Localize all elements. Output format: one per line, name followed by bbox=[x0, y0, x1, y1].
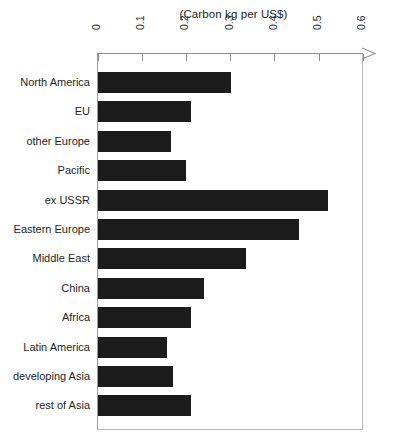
bar-4 bbox=[98, 190, 328, 211]
category-label-8: Africa bbox=[0, 311, 90, 323]
category-label-6: Middle East bbox=[0, 252, 90, 264]
bar-10 bbox=[98, 366, 173, 387]
bar-7 bbox=[98, 278, 204, 299]
bar-chart: (Carbon kg per US$) 00.10.20.30.40.50.6 … bbox=[0, 0, 397, 443]
category-label-5: Eastern Europe bbox=[0, 223, 90, 235]
category-label-3: Pacific bbox=[0, 164, 90, 176]
bar-row: developing Asia bbox=[0, 366, 397, 387]
bar-8 bbox=[98, 307, 191, 328]
bar-3 bbox=[98, 160, 186, 181]
category-label-0: North America bbox=[0, 76, 90, 88]
category-label-9: Latin America bbox=[0, 341, 90, 353]
bar-11 bbox=[98, 395, 191, 416]
bar-row: Middle East bbox=[0, 248, 397, 269]
category-label-7: China bbox=[0, 282, 90, 294]
bar-5 bbox=[98, 219, 299, 240]
bar-6 bbox=[98, 248, 246, 269]
bar-row: EU bbox=[0, 101, 397, 122]
category-label-10: developing Asia bbox=[0, 370, 90, 382]
bar-9 bbox=[98, 337, 167, 358]
bar-row: ex USSR bbox=[0, 190, 397, 211]
bar-row: Latin America bbox=[0, 337, 397, 358]
category-label-4: ex USSR bbox=[0, 194, 90, 206]
bar-row: Africa bbox=[0, 307, 397, 328]
bar-row: other Europe bbox=[0, 131, 397, 152]
bar-row: Eastern Europe bbox=[0, 219, 397, 240]
bar-row: China bbox=[0, 278, 397, 299]
bars-layer: North AmericaEUother EuropePacificex USS… bbox=[0, 0, 397, 443]
bar-row: North America bbox=[0, 72, 397, 93]
bar-2 bbox=[98, 131, 171, 152]
bar-row: Pacific bbox=[0, 160, 397, 181]
category-label-1: EU bbox=[0, 105, 90, 117]
category-label-2: other Europe bbox=[0, 135, 90, 147]
category-label-11: rest of Asia bbox=[0, 399, 90, 411]
bar-0 bbox=[98, 72, 231, 93]
bar-1 bbox=[98, 101, 191, 122]
bar-row: rest of Asia bbox=[0, 395, 397, 416]
